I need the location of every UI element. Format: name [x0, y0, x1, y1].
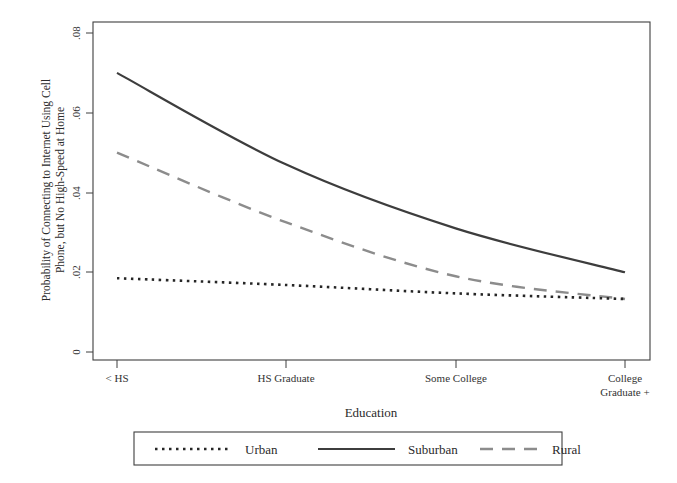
chart-figure: .08 .06 .04 .02 0 Probability of Connect… — [0, 0, 677, 483]
x-tick-label-some-college: Some College — [425, 372, 487, 384]
data-series-group — [117, 73, 625, 299]
x-axis-title: Education — [345, 405, 398, 420]
y-axis-title: Probability of Connecting to Internet Us… — [40, 79, 67, 301]
legend-label-rural: Rural — [552, 442, 581, 457]
plot-frame — [93, 22, 650, 360]
legend-label-suburban: Suburban — [408, 442, 458, 457]
y-axis-title-line2: Phone, but No High-Speed at Home — [54, 107, 67, 273]
series-line-urban — [117, 278, 625, 299]
x-tick-label-college-graduate-line2: Graduate + — [600, 386, 649, 398]
line-chart: .08 .06 .04 .02 0 Probability of Connect… — [0, 0, 677, 483]
legend-label-urban: Urban — [245, 442, 278, 457]
series-line-suburban — [117, 73, 625, 272]
y-axis-ticks — [86, 33, 93, 352]
y-tick-label: .08 — [70, 26, 82, 40]
x-tick-label-college-graduate-line1: College — [608, 372, 642, 384]
x-axis-ticks — [117, 360, 625, 368]
x-tick-label-hs-graduate: HS Graduate — [257, 372, 314, 384]
y-axis-tick-labels: .08 .06 .04 .02 0 — [70, 26, 82, 355]
y-tick-label: .06 — [70, 106, 82, 120]
x-tick-label-less-than-hs: < HS — [105, 372, 128, 384]
series-line-rural — [117, 153, 625, 299]
y-tick-label: .04 — [70, 186, 82, 200]
y-axis-title-line1: Probability of Connecting to Internet Us… — [40, 79, 53, 301]
x-axis-tick-labels: < HS HS Graduate Some College College Gr… — [105, 372, 649, 398]
y-tick-label: .02 — [70, 265, 82, 279]
chart-legend: Urban Suburban Rural — [134, 432, 581, 465]
y-tick-label: 0 — [70, 349, 82, 355]
